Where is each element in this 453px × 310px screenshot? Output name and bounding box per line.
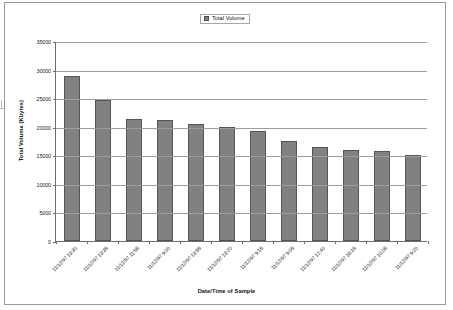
x-tick-label: 11/12/97 13:30 bbox=[51, 245, 79, 273]
bar-slot bbox=[56, 42, 87, 241]
x-tick-label: 11/12/97 9:15 bbox=[239, 245, 265, 271]
bars-layer bbox=[56, 42, 427, 241]
bar[interactable] bbox=[312, 147, 328, 241]
y-tick-mark bbox=[53, 185, 56, 186]
x-tick-label: 11/12/97 9:00 bbox=[146, 245, 172, 271]
gridline bbox=[56, 128, 427, 129]
bar-chart-figure: Total Volume 050001000015000200002500030… bbox=[0, 0, 453, 310]
bar-slot bbox=[242, 42, 273, 241]
legend-item-label: Total Volume bbox=[212, 16, 245, 22]
y-tick-label: 30000 bbox=[37, 68, 51, 74]
bar-slot bbox=[149, 42, 180, 241]
y-tick-label: 5000 bbox=[39, 210, 51, 216]
gridline bbox=[56, 71, 427, 72]
gridline bbox=[56, 213, 427, 214]
bar[interactable] bbox=[374, 151, 390, 241]
gridline bbox=[56, 42, 427, 43]
x-tick-label: 11/12/97 9:05 bbox=[270, 245, 296, 271]
x-tick-label: 11/12/97 13:55 bbox=[175, 245, 203, 273]
bar[interactable] bbox=[405, 155, 421, 241]
bar-slot bbox=[366, 42, 397, 241]
y-tick-label: 20000 bbox=[37, 125, 51, 131]
x-tick-label: 11/12/97 16:15 bbox=[330, 245, 358, 273]
bar-slot bbox=[211, 42, 242, 241]
x-tick-label: 11/12/97 13:35 bbox=[82, 245, 110, 273]
y-tick-mark bbox=[53, 71, 56, 72]
bar-slot bbox=[335, 42, 366, 241]
legend-swatch-icon bbox=[204, 16, 209, 21]
y-tick-label: 0 bbox=[48, 239, 51, 245]
x-tick-label: 11/12/97 13:20 bbox=[206, 245, 234, 273]
x-tick-label: 11/12/97 10:05 bbox=[361, 245, 389, 273]
bar-slot bbox=[87, 42, 118, 241]
bar[interactable] bbox=[157, 120, 173, 241]
bar-slot bbox=[118, 42, 149, 241]
bar[interactable] bbox=[188, 124, 204, 241]
x-tick-label: 11/12/97 12:40 bbox=[299, 245, 327, 273]
gridline bbox=[56, 185, 427, 186]
gridline bbox=[56, 99, 427, 100]
chart-legend: Total Volume bbox=[200, 14, 250, 24]
x-tick-label: 11/12/97 9:20 bbox=[394, 245, 420, 271]
x-tick-label: 11/12/97 11:55 bbox=[113, 245, 140, 272]
bar-slot bbox=[397, 42, 428, 241]
y-tick-mark bbox=[53, 42, 56, 43]
y-tick-label: 10000 bbox=[37, 182, 51, 188]
y-tick-label: 35000 bbox=[37, 39, 51, 45]
y-tick-mark bbox=[53, 156, 56, 157]
y-axis-title: Total Volume (Kbytes) bbox=[18, 100, 24, 161]
bar[interactable] bbox=[126, 119, 142, 241]
bar-slot bbox=[180, 42, 211, 241]
x-tick-labels: 11/12/97 13:3011/12/97 13:3511/12/97 11:… bbox=[55, 242, 427, 292]
plot-area: 05000100001500020000250003000035000 bbox=[55, 42, 427, 242]
x-tick-mark bbox=[428, 241, 429, 244]
y-tick-mark bbox=[53, 128, 56, 129]
gridline bbox=[56, 156, 427, 157]
x-axis-title: Date/Time of Sample bbox=[0, 288, 453, 294]
scan-artifact bbox=[1, 100, 2, 109]
y-tick-mark bbox=[53, 213, 56, 214]
bar[interactable] bbox=[343, 150, 359, 241]
bar[interactable] bbox=[64, 76, 80, 241]
y-tick-mark bbox=[53, 99, 56, 100]
y-tick-label: 25000 bbox=[37, 96, 51, 102]
y-tick-label: 15000 bbox=[37, 153, 51, 159]
bar[interactable] bbox=[250, 131, 266, 241]
bar-slot bbox=[273, 42, 304, 241]
bar[interactable] bbox=[95, 100, 111, 241]
bar-slot bbox=[304, 42, 335, 241]
